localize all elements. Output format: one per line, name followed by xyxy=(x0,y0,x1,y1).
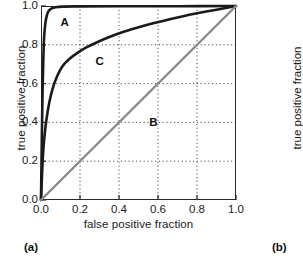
panel-b-y-tick-label: 0 xyxy=(284,116,303,128)
y-tick-label: 0.2 xyxy=(4,155,38,167)
x-tick-label: 0.2 xyxy=(60,204,100,216)
panel-a: true positive fraction false positive fr… xyxy=(0,0,258,265)
y-tick-label: 0.4 xyxy=(4,116,38,128)
x-tick-label: 0.4 xyxy=(99,204,139,216)
x-tick-label: 0.0 xyxy=(21,204,61,216)
panel-b-y-tick-label: 0 xyxy=(284,194,303,206)
panel-b-y-tick-label: 0 xyxy=(284,78,303,90)
panel-b-y-tick-label: 0 xyxy=(284,39,303,51)
curve-label-c: C xyxy=(96,56,104,68)
panel-b: true positive fraction 100000 (b) xyxy=(258,0,303,265)
x-tick-labels: 0.00.20.40.60.81.0 xyxy=(41,204,236,220)
x-tick-label: 1.0 xyxy=(216,204,256,216)
panel-b-y-tick-label: 0 xyxy=(284,155,303,167)
x-tick-label: 0.6 xyxy=(138,204,178,216)
y-tick-label: 0.6 xyxy=(4,78,38,90)
roc-figure: true positive fraction false positive fr… xyxy=(0,0,303,265)
roc-curve-b xyxy=(41,6,236,200)
panel-b-y-tick-label: 1 xyxy=(284,0,303,12)
curve-label-b: B xyxy=(149,117,157,129)
panel-caption-a: (a) xyxy=(24,242,38,254)
panel-b-y-tick-labels: 100000 xyxy=(280,0,303,206)
x-tick-label: 0.8 xyxy=(177,204,217,216)
panel-b-inner: true positive fraction 100000 xyxy=(258,0,303,265)
y-tick-label: 0.8 xyxy=(4,39,38,51)
plot-canvas-a xyxy=(41,6,236,200)
panel-caption-b: (b) xyxy=(272,242,287,254)
y-tick-label: 1.0 xyxy=(4,0,38,12)
y-tick-labels: 0.00.20.40.60.81.0 xyxy=(0,0,38,206)
curve-label-a: A xyxy=(61,17,69,29)
